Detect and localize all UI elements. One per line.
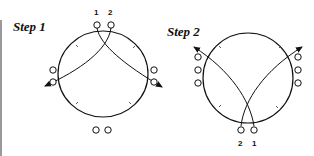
step-2-label-1: 1 [252,139,257,148]
step-2-right-ring-c [295,80,301,86]
step-1-label-1: 1 [94,8,99,17]
step-2-ring-1 [251,127,257,133]
step-1-strand-2 [45,28,111,86]
step-2-right-ring-a [295,54,301,60]
step-1-diagram: 1 2 [45,8,162,133]
step-2-strand-2 [241,47,302,126]
step-2-strand-1 [194,47,254,126]
step-1-ring-1 [94,22,100,28]
step-2-ring-2 [238,127,244,133]
step-1-bottom-ring-a [93,127,99,133]
step-1-ring-2 [108,22,114,28]
step-1-bottom-ring-b [105,127,111,133]
step-1-tick-marks [76,45,135,104]
step-1-right-ring-b [151,79,157,85]
step-2-left-ring-a [195,54,201,60]
step-2-diagram: 2 1 [194,33,302,148]
step-1-left-ring-a [50,67,56,73]
step-1-left-ring-b [50,79,56,85]
step-2-right-ring-b [295,67,301,73]
step-2-main-circle [203,33,293,123]
step-1-label-2: 2 [108,8,113,17]
step-1-right-ring-a [151,67,157,73]
step-2-left-ring-c [195,80,201,86]
step-1-strand-1 [97,28,162,87]
diagram-canvas: 1 2 2 1 [0,0,314,156]
step-2-label-2: 2 [238,139,243,148]
step-1-main-circle [58,31,148,117]
step-2-left-ring-b [195,67,201,73]
